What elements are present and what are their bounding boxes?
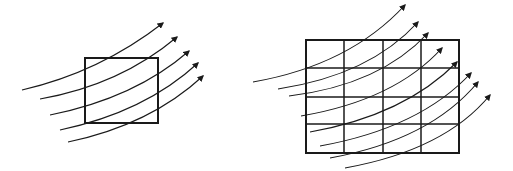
field-line-arrow <box>50 51 189 115</box>
flux-diagram <box>0 0 513 171</box>
field-lines-left <box>22 23 203 142</box>
field-line-arrow <box>289 33 428 96</box>
single-loop-square <box>85 58 158 123</box>
field-lines-right <box>253 5 490 168</box>
field-line-arrow <box>320 73 471 146</box>
single-loop-panel <box>22 23 203 142</box>
field-line-arrow <box>278 22 418 89</box>
field-line-arrow <box>253 5 405 82</box>
grid-panel <box>253 5 490 168</box>
field-line-arrow <box>345 95 490 168</box>
field-line-arrow <box>68 76 203 142</box>
grid-lines <box>306 40 459 153</box>
field-line-arrow <box>40 37 177 99</box>
field-line-arrow <box>22 23 163 90</box>
